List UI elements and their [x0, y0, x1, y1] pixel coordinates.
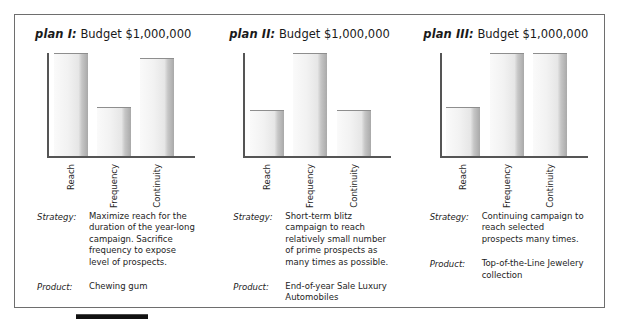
bar-frequency: [490, 53, 524, 156]
bar-continuity: [140, 58, 174, 156]
bar-slot: [97, 53, 131, 156]
strategy-row-i: Strategy:Maximize reach for the duration…: [37, 211, 195, 268]
category-cell: Continuity: [533, 160, 567, 212]
category-labels-row: ReachFrequencyContinuity: [245, 160, 375, 212]
product-text-i: Chewing gum: [89, 281, 195, 292]
bar-slot: [250, 53, 284, 156]
category-labels-iii: ReachFrequencyContinuity: [440, 160, 572, 212]
bar-continuity: [337, 110, 371, 156]
plan-title-ii: plan II:: [229, 27, 275, 41]
category-labels-ii: ReachFrequencyContinuity: [243, 160, 375, 212]
category-labels-row: ReachFrequencyContinuity: [49, 160, 179, 212]
caption-rule: [76, 314, 148, 319]
plan-panel-iii: plan III: Budget $1,000,000ReachFrequenc…: [408, 15, 604, 307]
bar-slot: [54, 53, 88, 156]
plan-description-i: Strategy:Maximize reach for the duration…: [15, 211, 211, 305]
product-text-ii: End-of-year Sale Luxury Automobiles: [285, 281, 391, 304]
bar-reach: [250, 110, 284, 156]
axis-label-frequency: Frequency: [502, 164, 512, 208]
bars-group-i: [49, 53, 179, 156]
strategy-text-iii: Continuing campaign to reach selected pr…: [482, 211, 588, 245]
category-cell: Reach: [446, 160, 480, 212]
strategy-row-ii: Strategy:Short-term blitz campaign to re…: [233, 211, 391, 268]
strategy-text-ii: Short-term blitz campaign to reach relat…: [285, 211, 391, 268]
bar-chart-iii: ReachFrequencyContinuity: [408, 53, 604, 215]
strategy-label-i: Strategy:: [37, 211, 89, 222]
plan-header-ii: plan II: Budget $1,000,000: [211, 27, 407, 41]
axis-label-continuity: Continuity: [349, 164, 359, 208]
plan-title-i: plan I:: [35, 27, 77, 41]
category-labels-i: ReachFrequencyContinuity: [47, 160, 179, 212]
category-cell: Reach: [250, 160, 284, 212]
bar-frequency: [293, 53, 327, 156]
plan-description-iii: Strategy:Continuing campaign to reach se…: [408, 211, 604, 294]
plan-budget-ii: Budget $1,000,000: [279, 27, 390, 41]
axis-label-frequency: Frequency: [305, 164, 315, 208]
category-cell: Frequency: [97, 160, 131, 212]
strategy-text-i: Maximize reach for the duration of the y…: [89, 211, 195, 268]
bar-slot: [533, 53, 567, 156]
strategy-label-ii: Strategy:: [233, 211, 285, 222]
figure-frame: plan I: Budget $1,000,000ReachFrequencyC…: [14, 14, 605, 308]
axis-label-reach: Reach: [458, 164, 468, 190]
plan-panels-container: plan I: Budget $1,000,000ReachFrequencyC…: [15, 15, 604, 307]
bar-slot: [446, 53, 480, 156]
plan-description-ii: Strategy:Short-term blitz campaign to re…: [211, 211, 407, 317]
bar-reach: [54, 53, 88, 156]
plan-title-iii: plan III:: [423, 27, 473, 41]
axis-label-frequency: Frequency: [109, 164, 119, 208]
plan-header-i: plan I: Budget $1,000,000: [15, 27, 211, 41]
product-label-i: Product:: [37, 281, 89, 292]
bar-slot: [140, 53, 174, 156]
axis-label-reach: Reach: [262, 164, 272, 190]
plot-area-ii: [243, 53, 375, 158]
bars-group-ii: [245, 53, 375, 156]
plan-header-iii: plan III: Budget $1,000,000: [408, 27, 604, 41]
product-row-i: Product:Chewing gum: [37, 281, 195, 292]
strategy-row-iii: Strategy:Continuing campaign to reach se…: [430, 211, 588, 245]
axis-label-continuity: Continuity: [152, 164, 162, 208]
plot-area-i: [47, 53, 179, 158]
bar-chart-ii: ReachFrequencyContinuity: [211, 53, 407, 215]
category-cell: Frequency: [293, 160, 327, 212]
axis-label-reach: Reach: [66, 164, 76, 190]
bar-chart-i: ReachFrequencyContinuity: [15, 53, 211, 215]
x-axis-iii: [440, 156, 588, 158]
plan-budget-i: Budget $1,000,000: [80, 27, 191, 41]
bar-continuity: [533, 53, 567, 156]
product-row-iii: Product:Top-of-the-Line Jewelery collect…: [430, 258, 588, 281]
x-axis-i: [47, 156, 195, 158]
bar-reach: [446, 107, 480, 156]
category-cell: Frequency: [490, 160, 524, 212]
category-cell: Reach: [54, 160, 88, 212]
axis-label-continuity: Continuity: [545, 164, 555, 208]
product-label-iii: Product:: [430, 258, 482, 269]
product-text-iii: Top-of-the-Line Jewelery collection: [482, 258, 588, 281]
category-cell: Continuity: [140, 160, 174, 212]
strategy-label-iii: Strategy:: [430, 211, 482, 222]
plan-panel-ii: plan II: Budget $1,000,000ReachFrequency…: [211, 15, 407, 307]
bar-slot: [337, 53, 371, 156]
category-labels-row: ReachFrequencyContinuity: [442, 160, 572, 212]
bar-slot: [293, 53, 327, 156]
product-label-ii: Product:: [233, 281, 285, 292]
plan-panel-i: plan I: Budget $1,000,000ReachFrequencyC…: [15, 15, 211, 307]
bar-frequency: [97, 107, 131, 156]
plan-budget-iii: Budget $1,000,000: [477, 27, 588, 41]
product-row-ii: Product:End-of-year Sale Luxury Automobi…: [233, 281, 391, 304]
x-axis-ii: [243, 156, 391, 158]
bars-group-iii: [442, 53, 572, 156]
category-cell: Continuity: [337, 160, 371, 212]
bar-slot: [490, 53, 524, 156]
plot-area-iii: [440, 53, 572, 158]
